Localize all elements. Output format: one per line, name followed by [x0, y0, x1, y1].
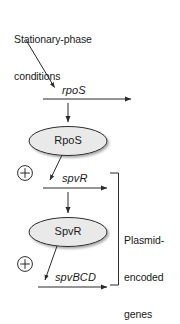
plasmid-genes-label-line-3: genes	[124, 308, 164, 320]
plus-circle-rpos-activation	[18, 166, 33, 181]
gene-label-spvr: spvR	[62, 172, 87, 185]
plasmid-genes-label: Plasmid- encoded genes	[124, 209, 164, 324]
gene-label-spvbcd: spvBCD	[55, 271, 96, 284]
plasmid-genes-label-line-1: Plasmid-	[124, 234, 164, 246]
plasmid-genes-label-line-2: encoded	[124, 271, 164, 283]
plus-circle-spvr-activation	[18, 257, 33, 272]
arrow-rpos-to-spvr-gene	[50, 155, 62, 180]
diagram-title-line-1: Stationary-phase	[14, 33, 92, 45]
diagram-title-line-2: conditions	[14, 70, 92, 82]
gene-label-rpos: rpoS	[62, 84, 86, 97]
node-label-spvr: SpvR	[29, 225, 107, 238]
node-label-rpos: RpoS	[29, 134, 107, 147]
plasmid-genes-bracket	[110, 173, 119, 285]
